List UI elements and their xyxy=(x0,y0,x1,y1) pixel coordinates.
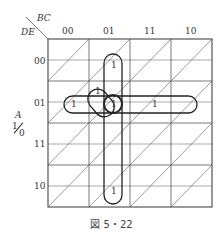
one-cell: 1 xyxy=(111,186,117,196)
row-label: 01 xyxy=(34,98,45,108)
one-cell: 1 xyxy=(152,99,158,109)
col-label: 11 xyxy=(144,26,155,36)
col-label: 10 xyxy=(185,26,196,36)
col-label: 00 xyxy=(62,26,73,36)
one-cell: 1 xyxy=(111,99,117,109)
row-label: 11 xyxy=(34,139,45,149)
one-cell: 1 xyxy=(111,60,117,70)
col-label: 01 xyxy=(103,26,114,36)
one-cell: 1 xyxy=(95,86,101,96)
one-cell: 1 xyxy=(71,99,77,109)
row-var-label: DE xyxy=(21,27,35,37)
row-label: 00 xyxy=(34,56,45,66)
cell-var-label: A xyxy=(15,110,22,120)
col-var-label: BC xyxy=(37,13,51,23)
figure-caption: 図 5・22 xyxy=(0,216,223,231)
row-label: 10 xyxy=(34,181,45,191)
cell-var-bottom: 0 xyxy=(19,128,25,138)
